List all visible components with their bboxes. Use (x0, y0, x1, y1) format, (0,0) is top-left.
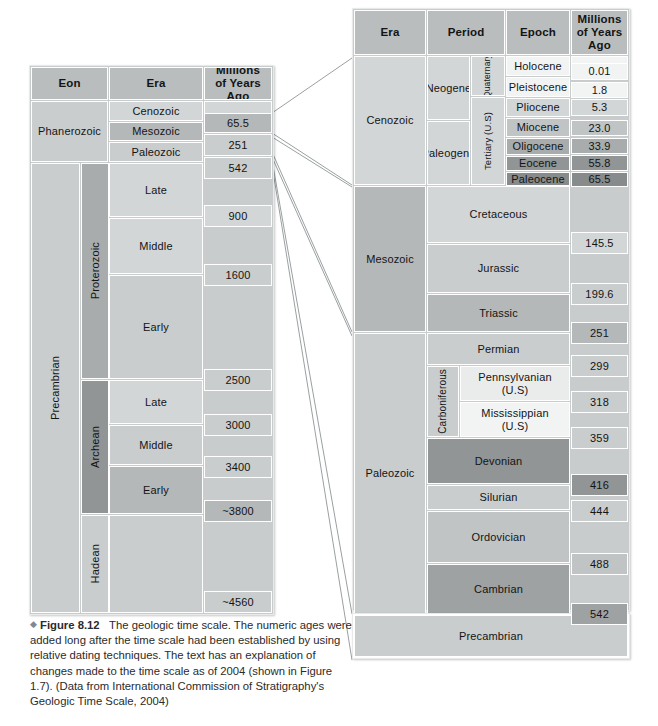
left-era-proterozoic-late[interactable]: Late (109, 163, 203, 217)
right-age-488: 488 (571, 553, 628, 575)
left-era-proterozoic-early[interactable]: Early (109, 275, 203, 379)
left-age-3800: ~3800 (204, 500, 272, 522)
left-era-cenozoic[interactable]: Cenozoic (109, 101, 203, 121)
left-header-mya-line3: Ago (227, 90, 250, 100)
right-header-mya-line1: Millions (577, 13, 621, 26)
right-epoch-holocene[interactable]: Holocene (506, 56, 570, 76)
right-period-triassic[interactable]: Triassic (427, 294, 570, 332)
left-era-proterozoic-middle[interactable]: Middle (109, 218, 203, 274)
right-age-23-0: 23.0 (571, 120, 628, 136)
right-period-silurian[interactable]: Silurian (427, 485, 570, 510)
left-era-archean-middle[interactable]: Middle (109, 425, 203, 465)
right-age-542: 542 (571, 603, 628, 625)
right-header-mya: Millions of Years Ago (571, 10, 628, 55)
right-age-1-8: 1.8 (571, 82, 628, 98)
right-period-jurassic[interactable]: Jurassic (427, 244, 570, 293)
right-era-mesozoic[interactable]: Mesozoic (354, 186, 426, 332)
right-epoch-miocene[interactable]: Miocene (506, 118, 570, 137)
right-era-cenozoic[interactable]: Cenozoic (354, 56, 426, 185)
left-subeon-archean[interactable]: Archean (81, 380, 109, 514)
left-age-1600: 1600 (204, 264, 272, 286)
right-subperiod-pennsylvanian-line2: (U.S) (502, 384, 528, 397)
right-epoch-oligocene[interactable]: Oligocene (506, 138, 570, 155)
left-age-3400: 3400 (204, 456, 272, 478)
right-age-0-01: 0.01 (571, 63, 628, 80)
left-era-hadean-blank[interactable] (109, 515, 203, 613)
left-era-mesozoic[interactable]: Mesozoic (109, 122, 203, 141)
right-epoch-pliocene[interactable]: Pliocene (506, 98, 570, 117)
right-age-251: 251 (571, 322, 628, 344)
left-era-archean-early[interactable]: Early (109, 466, 203, 514)
left-subeon-proterozoic[interactable]: Proterozoic (81, 163, 109, 379)
right-age-33-9: 33.9 (571, 138, 628, 154)
left-header-mya-line2: of Years (215, 77, 261, 90)
right-header-mya-line2: of Years (577, 26, 623, 39)
right-age-65-5: 65.5 (571, 172, 628, 187)
right-epoch-pleistocene[interactable]: Pleistocene (506, 77, 570, 97)
right-age-318: 318 (571, 391, 628, 413)
right-period-carboniferous[interactable]: Carboniferous (427, 366, 459, 437)
left-age-4560: ~4560 (204, 591, 272, 613)
right-age-416: 416 (571, 474, 628, 496)
left-age-65-5: 65.5 (204, 113, 272, 133)
left-age-900: 900 (204, 205, 272, 227)
right-epoch-eocene[interactable]: Eocene (506, 156, 570, 171)
left-age-2500: 2500 (204, 369, 272, 391)
caption-bullet-icon: ◆ (30, 619, 37, 629)
right-subperiod-mississippian-line2: (U.S) (502, 420, 528, 433)
right-subperiod-mississippian-line1: Mississippian (481, 407, 548, 420)
left-subeon-proterozoic-label: Proterozoic (89, 242, 102, 299)
left-era-archean-late[interactable]: Late (109, 380, 203, 424)
figure-canvas: Eon Era Millions of Years Ago Phanerozoi… (0, 0, 658, 726)
right-age-5-3: 5.3 (571, 99, 628, 116)
right-period-neogene[interactable]: Neogene (427, 56, 470, 120)
right-subperiod-mississippian[interactable]: Mississippian (U.S) (460, 402, 570, 437)
right-period-permian[interactable]: Permian (427, 333, 570, 365)
right-age-444: 444 (571, 500, 628, 522)
left-eon-precambrian[interactable]: Precambrian (31, 163, 80, 613)
right-era-paleozoic[interactable]: Paleozoic (354, 333, 426, 614)
left-header-eon: Eon (31, 67, 108, 100)
left-header-mya: Millions of Years Ago (204, 67, 272, 100)
right-epoch-paleocene[interactable]: Paleocene (506, 172, 570, 186)
right-subperiod-quaternary[interactable]: Quaternary (471, 56, 505, 96)
figure-caption: ◆Figure 8.12 The geologic time scale. Th… (30, 617, 352, 709)
right-header-mya-line3: Ago (588, 39, 611, 52)
right-subperiod-tertiary[interactable]: Tertiary (U.S) (471, 97, 505, 185)
right-subperiod-pennsylvanian[interactable]: Pennsylvanian (U.S) (460, 366, 570, 401)
left-header-era: Era (109, 67, 203, 100)
right-header-epoch: Epoch (506, 10, 570, 55)
left-age-251: 251 (204, 134, 272, 156)
right-subperiod-quaternary-label: Quaternary (483, 56, 493, 96)
right-age-55-8: 55.8 (571, 155, 628, 171)
left-eon-precambrian-label: Precambrian (49, 356, 62, 420)
left-header-mya-line1: Millions (216, 67, 260, 77)
right-subperiod-pennsylvanian-line1: Pennsylvanian (478, 371, 552, 384)
right-period-cambrian[interactable]: Cambrian (427, 564, 570, 614)
left-age-3000: 3000 (204, 414, 272, 436)
left-age-542: 542 (204, 157, 272, 179)
right-age-299: 299 (571, 355, 628, 377)
left-eon-phanerozoic[interactable]: Phanerozoic (31, 101, 108, 162)
left-subeon-hadean-label: Hadean (89, 544, 102, 583)
right-period-cretaceous[interactable]: Cretaceous (427, 186, 570, 243)
right-age-145-5: 145.5 (571, 232, 628, 254)
caption-spacer (100, 619, 109, 631)
caption-text: The geologic time scale. The numeric age… (30, 619, 352, 707)
left-subeon-hadean[interactable]: Hadean (81, 515, 109, 613)
caption-figure-label: Figure 8.12 (40, 619, 100, 631)
right-age-199-6: 199.6 (571, 283, 628, 305)
right-header-era: Era (354, 10, 426, 55)
right-period-ordovician[interactable]: Ordovician (427, 511, 570, 563)
right-period-carboniferous-label: Carboniferous (437, 369, 449, 434)
right-header-period: Period (427, 10, 505, 55)
right-age-359: 359 (571, 427, 628, 449)
left-era-paleozoic[interactable]: Paleozoic (109, 142, 203, 162)
right-period-devonian[interactable]: Devonian (427, 438, 570, 484)
left-subeon-archean-label: Archean (89, 426, 102, 468)
right-period-paleogene[interactable]: Paleogene (427, 121, 470, 185)
right-subperiod-tertiary-label: Tertiary (U.S) (483, 112, 494, 170)
